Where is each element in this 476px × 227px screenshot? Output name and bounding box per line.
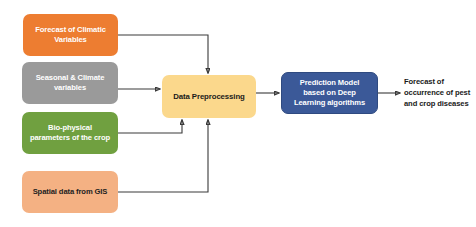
process-box-data-preprocessing[interactable]: Data Preprocessing [162, 75, 256, 118]
input-box-spatial-gis-label: Spatial data from GIS [33, 187, 108, 197]
connector-gis-to-preprocessing [118, 120, 208, 192]
process-box-prediction-model-label: Prediction Model based on Deep Learning … [288, 78, 371, 107]
input-box-seasonal-climate-label: Seasonal & Climate variables [28, 73, 112, 92]
input-box-biophysical-parameters-label: Bio-physical parameters of the crop [28, 123, 112, 142]
input-box-biophysical-parameters[interactable]: Bio-physical parameters of the crop [22, 112, 118, 154]
connector-climate-to-preprocessing [118, 35, 208, 73]
input-box-climate-forecast-label: Forecast of Climatic Variables [29, 25, 112, 44]
output-label-forecast: Forecast of occurrence of pest and crop … [404, 76, 474, 109]
diagram-canvas: Forecast of Climatic Variables Seasonal … [0, 0, 476, 227]
process-box-data-preprocessing-label: Data Preprocessing [173, 92, 244, 102]
input-box-seasonal-climate[interactable]: Seasonal & Climate variables [22, 62, 118, 104]
input-box-climate-forecast[interactable]: Forecast of Climatic Variables [23, 14, 118, 56]
connector-biophysical-to-preprocessing [118, 120, 182, 133]
input-box-spatial-gis[interactable]: Spatial data from GIS [22, 171, 118, 213]
process-box-prediction-model[interactable]: Prediction Model based on Deep Learning … [281, 72, 378, 114]
